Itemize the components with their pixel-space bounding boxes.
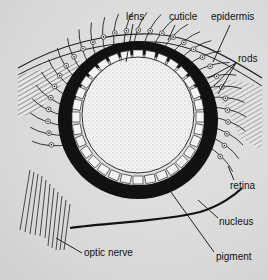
label-cuticle: cuticle — [169, 12, 197, 22]
diagram-canvas: lens cuticle epidermis rods retina nucle… — [0, 0, 268, 280]
label-epidermis: epidermis — [211, 12, 254, 22]
label-pigment: pigment — [216, 252, 252, 262]
optic-nerve-fibers — [20, 170, 70, 250]
label-rods: rods — [238, 54, 257, 64]
lens — [82, 57, 194, 173]
label-retina: retina — [230, 181, 255, 191]
label-lens: lens — [126, 12, 144, 22]
label-nucleus: nucleus — [219, 217, 253, 227]
eye-illustration — [0, 0, 268, 280]
label-optic-nerve: optic nerve — [84, 248, 133, 258]
